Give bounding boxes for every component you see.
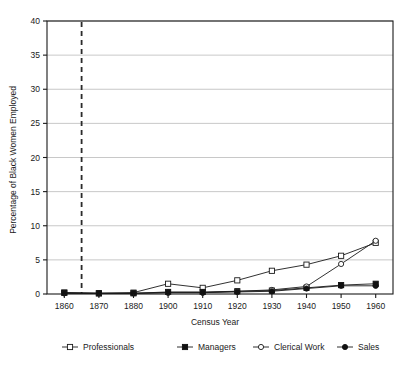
x-tick-label: 1960	[366, 301, 385, 311]
data-point-filled-circle-marker	[339, 283, 344, 288]
data-point-open-square-marker	[269, 268, 274, 273]
data-point-open-square-marker	[339, 253, 344, 258]
data-point-open-circle-marker	[373, 238, 378, 243]
y-axis-title: Percentage of Black Women Employed	[8, 86, 18, 234]
legend-label: Managers	[198, 342, 236, 352]
x-tick-label: 1930	[262, 301, 281, 311]
y-tick-label: 0	[35, 289, 40, 299]
x-tick-label: 1900	[159, 301, 178, 311]
legend-swatch-filled-square-marker	[182, 344, 187, 349]
x-tick-label: 1880	[124, 301, 143, 311]
data-point-open-square-marker	[235, 278, 240, 283]
data-point-filled-circle-marker	[269, 289, 274, 294]
x-tick-label: 1920	[228, 301, 247, 311]
x-tick-label: 1940	[297, 301, 316, 311]
x-tick-label: 1910	[193, 301, 212, 311]
y-tick-label: 30	[31, 84, 41, 94]
data-point-filled-circle-marker	[304, 286, 309, 291]
data-point-open-square-marker	[304, 262, 309, 267]
data-point-filled-circle-marker	[235, 289, 240, 294]
legend-swatch-filled-circle-marker	[342, 344, 347, 349]
legend-label: Clerical Work	[274, 342, 325, 352]
y-tick-label: 15	[31, 187, 41, 197]
data-point-open-square-marker	[166, 281, 171, 286]
chart-container: 0510152025303540 18601870188019001910192…	[0, 0, 407, 365]
y-tick-label: 35	[31, 50, 41, 60]
x-tick-label: 1870	[89, 301, 108, 311]
y-tick-label: 5	[35, 255, 40, 265]
data-point-open-circle-marker	[339, 261, 344, 266]
x-tick-label: 1950	[332, 301, 351, 311]
legend-label: Sales	[358, 342, 379, 352]
y-tick-label: 40	[31, 16, 41, 26]
data-point-filled-circle-marker	[373, 283, 378, 288]
legend-label: Professionals	[83, 342, 134, 352]
x-tick-label: 1860	[55, 301, 74, 311]
x-axis-title: Census Year	[191, 317, 239, 327]
legend-swatch-open-square-marker	[67, 344, 72, 349]
y-tick-label: 10	[31, 221, 41, 231]
y-tick-label: 25	[31, 118, 41, 128]
line-chart: 0510152025303540 18601870188019001910192…	[0, 0, 407, 365]
legend-swatch-open-circle-marker	[258, 344, 263, 349]
y-tick-label: 20	[31, 153, 41, 163]
